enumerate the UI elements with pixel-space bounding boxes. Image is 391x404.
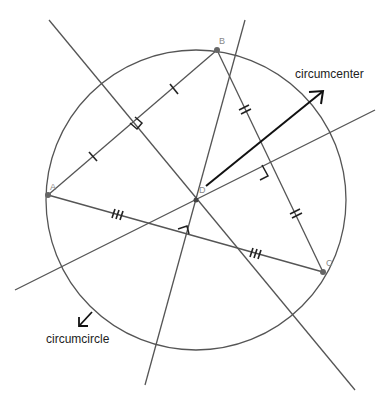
point-d-label: D xyxy=(199,185,206,195)
point-a xyxy=(45,192,51,198)
side-ac xyxy=(48,195,323,272)
point-d xyxy=(194,198,199,203)
side-ab xyxy=(48,50,217,195)
point-b-label: B xyxy=(219,36,225,46)
point-b xyxy=(214,47,220,53)
point-c-label: C xyxy=(326,258,333,268)
side-bc xyxy=(217,50,323,272)
right-angle-markers xyxy=(130,117,268,234)
circumcircle-label: circumcircle xyxy=(46,332,109,346)
circumcircle-arrow xyxy=(79,312,92,326)
circumcenter-label: circumcenter xyxy=(295,67,364,81)
point-c xyxy=(320,269,326,275)
circumcenter-arrow xyxy=(206,91,323,186)
point-a-label: A xyxy=(50,182,56,192)
perp-bisector-ac xyxy=(145,20,245,385)
